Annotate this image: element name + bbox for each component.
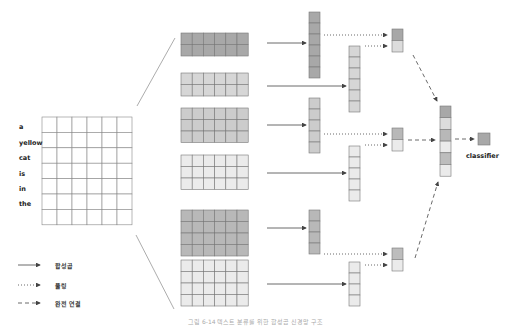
word-label: the bbox=[19, 200, 31, 208]
filter-cell bbox=[226, 233, 237, 245]
filter-cell bbox=[237, 283, 248, 295]
filter-cell bbox=[181, 45, 192, 57]
legend-pooling-label: 풀링 bbox=[55, 281, 67, 290]
filter-cell bbox=[237, 260, 248, 272]
grid-cell bbox=[117, 148, 132, 163]
grid-cell bbox=[87, 148, 102, 163]
grid-cell bbox=[102, 163, 117, 178]
feature-cell bbox=[309, 210, 320, 221]
feature-cell bbox=[349, 168, 360, 179]
feature-cell bbox=[349, 284, 360, 295]
grid-cell bbox=[117, 117, 132, 132]
filter-cell bbox=[226, 222, 237, 234]
filter-cell bbox=[215, 131, 226, 143]
word-label: in bbox=[19, 185, 26, 193]
filter-cell bbox=[203, 272, 214, 284]
concatenated-vector bbox=[440, 106, 451, 176]
filter-cell bbox=[237, 272, 248, 284]
filter-cell bbox=[215, 210, 226, 222]
filter-cell bbox=[226, 283, 237, 295]
filter-cell bbox=[203, 45, 214, 57]
feature-cell bbox=[309, 12, 320, 23]
feature-cell bbox=[309, 23, 320, 34]
feature-cell bbox=[349, 179, 360, 190]
filter-cell bbox=[226, 167, 237, 179]
word-label: a bbox=[19, 123, 23, 131]
grid-cell bbox=[57, 209, 72, 224]
filter-cell bbox=[226, 120, 237, 132]
filter-cell bbox=[237, 167, 248, 179]
fc-arrow bbox=[415, 182, 438, 258]
filter-cell bbox=[181, 272, 192, 284]
filter-cell bbox=[215, 108, 226, 120]
filter-cell bbox=[203, 73, 214, 85]
grid-cell bbox=[72, 163, 87, 178]
filter-cell bbox=[203, 33, 214, 45]
filter-cell bbox=[226, 178, 237, 190]
filter-cell bbox=[181, 210, 192, 222]
grid-cell bbox=[57, 148, 72, 163]
pooled-cell bbox=[392, 248, 403, 260]
filter-cell bbox=[237, 295, 248, 307]
filter-cell bbox=[192, 295, 203, 307]
filter-cell bbox=[215, 222, 226, 234]
filter-cell bbox=[192, 131, 203, 143]
feature-cell bbox=[349, 79, 360, 90]
legend-fully-connected-label: 완전 연결 bbox=[55, 299, 81, 308]
filter-cell bbox=[203, 167, 214, 179]
filter-cell bbox=[226, 73, 237, 85]
grid-cell bbox=[102, 132, 117, 147]
filter-cell bbox=[192, 283, 203, 295]
feature-cell bbox=[309, 45, 320, 56]
filter-cell bbox=[203, 120, 214, 132]
filter-cell bbox=[237, 155, 248, 167]
filter-cell bbox=[203, 222, 214, 234]
filter-cell bbox=[181, 155, 192, 167]
feature-cell bbox=[349, 46, 360, 57]
feature-cell bbox=[309, 131, 320, 142]
grid-cell bbox=[42, 194, 57, 209]
filter-cell bbox=[181, 167, 192, 179]
grid-cell bbox=[87, 179, 102, 194]
grid-cell bbox=[57, 163, 72, 178]
word-label: yellow bbox=[19, 139, 43, 147]
grid-cell bbox=[57, 194, 72, 209]
feature-cell bbox=[309, 120, 320, 131]
filter-cell bbox=[192, 178, 203, 190]
filter-cell bbox=[203, 283, 214, 295]
grid-cell bbox=[102, 209, 117, 224]
grid-cell bbox=[42, 179, 57, 194]
grid-cell bbox=[72, 179, 87, 194]
feature-maps bbox=[309, 12, 360, 306]
filter-cell bbox=[192, 45, 203, 57]
filter-cell bbox=[181, 131, 192, 143]
filter-cell bbox=[215, 33, 226, 45]
filter-cell bbox=[181, 245, 192, 257]
feature-cell bbox=[309, 56, 320, 67]
filter-cell bbox=[192, 33, 203, 45]
filter-cell bbox=[181, 283, 192, 295]
grid-cell bbox=[72, 148, 87, 163]
filter-cell bbox=[215, 85, 226, 97]
grid-cell bbox=[42, 148, 57, 163]
filter-cell bbox=[226, 45, 237, 57]
feature-cell bbox=[349, 68, 360, 79]
filter-cell bbox=[215, 167, 226, 179]
filter-cell bbox=[226, 155, 237, 167]
filter-cell bbox=[215, 178, 226, 190]
grid-cell bbox=[57, 117, 72, 132]
pooled-cell bbox=[392, 29, 403, 41]
grid-cell bbox=[72, 132, 87, 147]
filter-cell bbox=[181, 33, 192, 45]
pooled-cell bbox=[392, 128, 403, 140]
filter-cell bbox=[181, 85, 192, 97]
concat-cell bbox=[440, 106, 451, 118]
grid-cell bbox=[87, 209, 102, 224]
filter-cell bbox=[237, 222, 248, 234]
filter-cell bbox=[226, 131, 237, 143]
classifier-box bbox=[478, 133, 490, 145]
filter-cell bbox=[226, 245, 237, 257]
convolution-filters bbox=[181, 33, 248, 306]
filter-cell bbox=[181, 120, 192, 132]
feature-cell bbox=[309, 109, 320, 120]
